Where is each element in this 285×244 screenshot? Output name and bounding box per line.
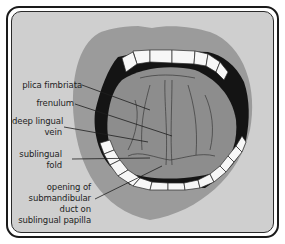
label-deep-lingual-vein: deep lingual vein (12, 116, 62, 138)
label-submandibular-duct-opening: opening of submandibular duct on subling… (10, 182, 91, 226)
label-frenulum: frenulum (22, 98, 74, 109)
label-plica-fimbriata: plica fimbriata (22, 80, 82, 91)
label-sublingual-fold: sublingual fold (12, 149, 62, 171)
